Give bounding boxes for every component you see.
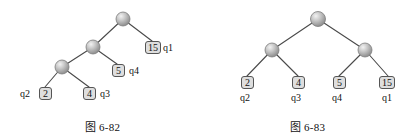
leaf-label-q2: q2 [20, 88, 30, 99]
internal-node-root [116, 12, 130, 26]
right-tree-internal-nodes [265, 12, 372, 58]
figure-6-83-panel: 2 q2 4 q3 5 q4 15 q1 图 6-83 [205, 0, 410, 138]
leaf-box-15: 15 [145, 41, 161, 54]
leaf-label-q4: q4 [332, 92, 342, 103]
internal-node-right [358, 43, 372, 57]
internal-node-left [265, 43, 279, 57]
internal-node-mid [86, 40, 100, 54]
edge-root-right [318, 19, 365, 50]
leaf-box-5: 5 [333, 76, 346, 89]
leaf-box-2: 2 [39, 87, 52, 100]
leaf-box-5: 5 [112, 64, 125, 77]
figure-caption-6-83: 图 6-83 [205, 121, 410, 134]
left-tree-edges [45, 19, 152, 87]
figure-root: 15 q1 5 q4 q2 2 4 q3 图 6-82 [0, 0, 410, 138]
leaf-box-15: 15 [379, 76, 395, 89]
leaf-label-q3: q3 [100, 88, 110, 99]
leaf-label-q3: q3 [291, 92, 301, 103]
internal-node-low [55, 60, 69, 74]
leaf-label-q1: q1 [382, 92, 392, 103]
leaf-box-2: 2 [241, 76, 254, 89]
leaf-label-q4: q4 [129, 65, 139, 76]
leaf-label-q2: q2 [240, 92, 250, 103]
leaf-box-4: 4 [83, 87, 96, 100]
leaf-box-4: 4 [292, 76, 305, 89]
leaf-label-q1: q1 [163, 42, 173, 53]
internal-node-root [311, 12, 326, 27]
figure-caption-6-82: 图 6-82 [0, 121, 205, 134]
edge-root-left [272, 19, 318, 50]
figure-6-82-panel: 15 q1 5 q4 q2 2 4 q3 图 6-82 [0, 0, 205, 138]
right-tree-graphic [205, 0, 410, 112]
